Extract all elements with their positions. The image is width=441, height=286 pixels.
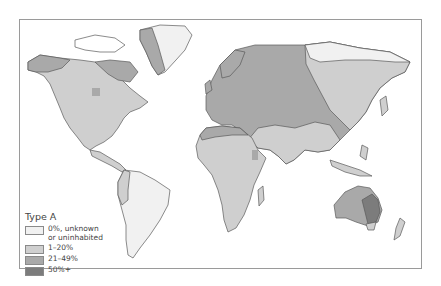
legend-item: 1–20% bbox=[25, 244, 103, 254]
legend-item: 50%+ bbox=[25, 266, 103, 276]
legend-label: 50%+ bbox=[48, 266, 71, 275]
legend-swatch-low bbox=[25, 245, 44, 254]
legend-item: 21–49% bbox=[25, 255, 103, 265]
map-legend: Type A 0%, unknown or uninhabited 1–20% … bbox=[25, 211, 103, 277]
legend-label: 1–20% bbox=[48, 244, 73, 253]
legend-swatch-high bbox=[25, 267, 44, 276]
legend-label: 21–49% bbox=[48, 255, 78, 264]
legend-item: 0%, unknown or uninhabited bbox=[25, 225, 103, 243]
legend-title: Type A bbox=[25, 211, 103, 222]
legend-swatch-none bbox=[25, 226, 44, 235]
legend-label: 0%, unknown or uninhabited bbox=[48, 225, 103, 242]
legend-swatch-mid bbox=[25, 256, 44, 265]
